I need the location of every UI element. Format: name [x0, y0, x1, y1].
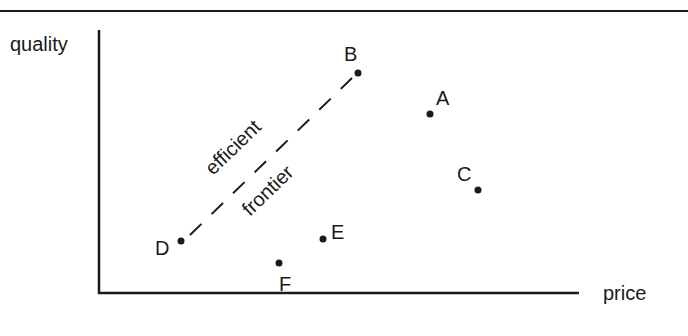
- point-label: D: [155, 237, 169, 259]
- point-E: E: [320, 221, 345, 243]
- point-marker: [276, 260, 283, 267]
- x-axis-label: price: [603, 282, 646, 304]
- efficient-frontier-diagram: quality price efficient frontier A B C D…: [0, 0, 688, 336]
- point-label: C: [457, 163, 471, 185]
- point-label: F: [279, 273, 291, 295]
- point-C: C: [457, 163, 482, 194]
- point-marker: [178, 238, 185, 245]
- point-label: E: [331, 221, 344, 243]
- point-marker: [355, 70, 362, 77]
- point-marker: [475, 187, 482, 194]
- point-label: A: [436, 87, 450, 109]
- point-marker: [427, 111, 434, 118]
- point-A: A: [427, 87, 451, 118]
- point-F: F: [276, 260, 292, 296]
- point-D: D: [155, 237, 185, 259]
- point-label: B: [344, 43, 357, 65]
- frontier-label-frontier: frontier: [237, 161, 297, 220]
- point-marker: [320, 236, 327, 243]
- point-B: B: [344, 43, 362, 77]
- y-axis-label: quality: [10, 33, 68, 55]
- frontier-label-efficient: efficient: [200, 115, 265, 179]
